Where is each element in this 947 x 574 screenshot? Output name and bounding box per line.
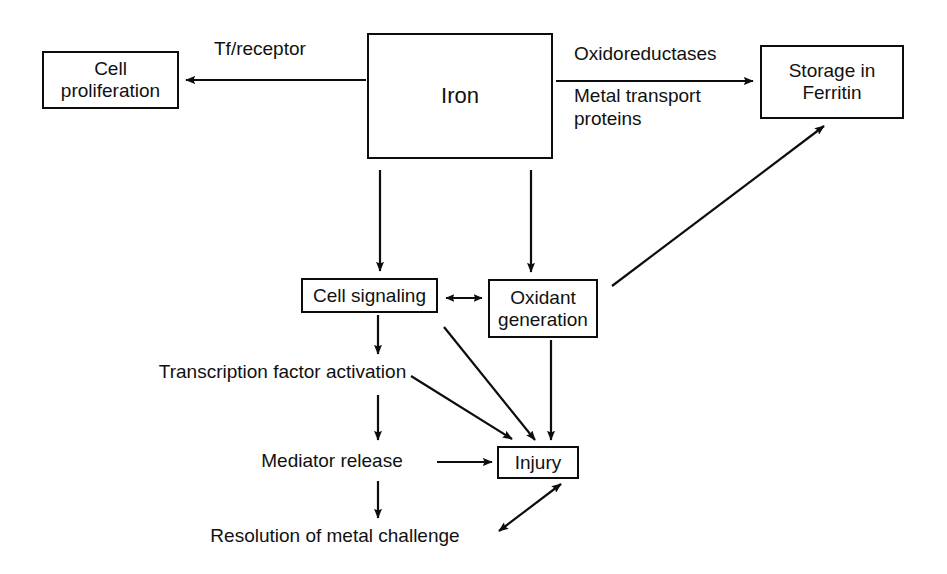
edge-oxidant-generation-to-storage-ferritin (612, 126, 824, 286)
node-oxidant-generation-label: Oxidant generation (498, 287, 588, 330)
node-injury-label: Injury (515, 452, 561, 474)
edge-label-oxidoreductases: Oxidoreductases (574, 43, 717, 66)
node-cell-proliferation-label: Cell proliferation (61, 58, 160, 101)
node-iron: Iron (367, 33, 553, 159)
diagram-canvas: Cell proliferation Iron Storage in Ferri… (0, 0, 947, 574)
node-transcription-factor-activation: Transcription factor activation (140, 358, 425, 386)
node-resolution-of-metal-challenge-label: Resolution of metal challenge (210, 525, 459, 547)
node-storage-in-ferritin: Storage in Ferritin (760, 45, 904, 119)
node-mediator-release-label: Mediator release (261, 450, 403, 472)
node-cell-proliferation: Cell proliferation (42, 51, 179, 109)
edge-label-tf-receptor: Tf/receptor (214, 38, 306, 61)
edge-resolution-injury (499, 484, 561, 531)
node-injury: Injury (497, 446, 579, 479)
node-iron-label: Iron (441, 83, 479, 108)
node-storage-in-ferritin-label: Storage in Ferritin (789, 60, 876, 103)
edge-cell-signaling-to-injury (444, 327, 535, 440)
edge-label-metal-transport-proteins: Metal transport proteins (574, 85, 701, 131)
node-mediator-release: Mediator release (232, 447, 432, 475)
node-cell-signaling: Cell signaling (301, 278, 438, 313)
node-cell-signaling-label: Cell signaling (313, 285, 426, 307)
node-resolution-of-metal-challenge: Resolution of metal challenge (175, 522, 495, 550)
node-transcription-factor-activation-label: Transcription factor activation (159, 361, 406, 383)
edge-transcription-factor-to-injury (411, 376, 512, 439)
node-oxidant-generation: Oxidant generation (488, 279, 598, 338)
